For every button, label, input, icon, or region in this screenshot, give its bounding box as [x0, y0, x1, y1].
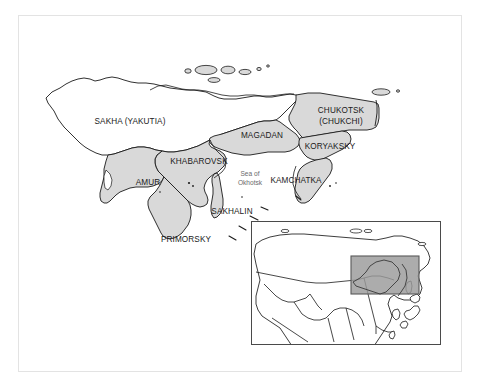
- inset-island-a: [350, 229, 362, 233]
- island-novaya-a: [239, 69, 251, 74]
- region-label-amur: AMUR: [136, 179, 161, 188]
- stipple-e: [329, 185, 331, 187]
- region-label-chukchi: (CHUKCHI): [319, 118, 363, 127]
- stipple-c: [159, 191, 161, 193]
- inset-locator-map: [251, 221, 441, 345]
- inset-japan-kyushu: [400, 321, 408, 328]
- kuril-dash-3: [239, 226, 246, 230]
- island-small-a: [185, 69, 191, 73]
- stipple-b: [192, 185, 194, 187]
- stipple-f: [335, 182, 337, 184]
- water-label-sea-of-okhotsk: Sea of Okhotsk: [238, 170, 262, 188]
- region-label-kamchatka: KAMCHATKA: [270, 177, 321, 186]
- island-small-b: [257, 67, 261, 70]
- sea-label-line-2: Okhotsk: [238, 179, 262, 188]
- map-stage: SAKHA (YAKUTIA) CHUKOTSK (CHUKCHI) MAGAD…: [0, 0, 481, 389]
- region-label-sakhalin: SAKHALIN: [211, 208, 252, 217]
- region-label-primorsky: PRIMORSKY: [161, 236, 211, 245]
- island-kotelny: [195, 65, 217, 74]
- island-small-c: [267, 65, 270, 67]
- inset-island-d: [418, 242, 426, 245]
- kuril-dash-4: [229, 236, 236, 240]
- region-label-magadan: MAGADAN: [241, 132, 283, 141]
- inset-map-vector: [252, 222, 441, 345]
- island-small-e: [396, 90, 399, 92]
- region-label-sakha: SAKHA (YAKUTIA): [95, 118, 166, 127]
- kuril-dash-1: [261, 207, 268, 210]
- arctic-islands-group: [185, 65, 400, 95]
- region-label-chukotsk: CHUKOTSK: [318, 107, 364, 116]
- island-faddeyev: [221, 66, 235, 74]
- inset-island-b: [364, 229, 372, 232]
- island-small-d: [208, 78, 220, 83]
- inset-highlight-rect: [351, 256, 419, 294]
- inset-japan-honshu: [404, 306, 420, 320]
- inset-island-c: [281, 229, 289, 232]
- island-wrangel: [372, 89, 390, 95]
- stipple-d: [241, 196, 243, 198]
- figure-canvas: SAKHA (YAKUTIA) CHUKOTSK (CHUKCHI) MAGAD…: [0, 0, 481, 389]
- region-label-khabarovsk: KHABAROVSK: [170, 158, 227, 167]
- inset-korea: [392, 309, 400, 320]
- region-label-koryaksky: KORYAKSKY: [305, 143, 356, 152]
- stipple-a: [188, 182, 190, 184]
- sea-label-line-1: Sea of: [238, 170, 262, 179]
